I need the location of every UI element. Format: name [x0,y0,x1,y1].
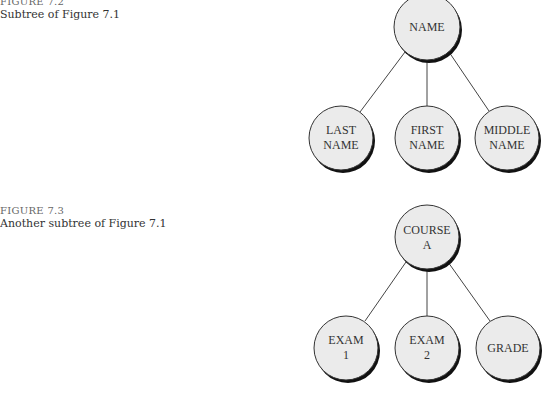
edge [448,262,490,321]
node-label: NAME [409,138,444,152]
node-label: NAME [489,138,524,152]
node-label: NAME [409,20,444,34]
node-label: FIRST [411,123,444,137]
edge [360,52,405,112]
tree-node-root: COURSE A [395,205,461,272]
tree-node-child: EXAM 2 [395,316,461,383]
tree-node-child: MIDDLE NAME [475,106,541,173]
node-label: EXAM [328,333,364,347]
tree-node-child: FIRST NAME [395,106,461,173]
node-label: 1 [343,348,349,362]
tree-diagrams: NAME LAST NAME FIRST NAME MIDDLE NAME [0,0,543,394]
figure-7-3-tree: COURSE A EXAM 1 EXAM 2 GRADE [314,205,542,383]
node-label: MIDDLE [484,123,531,137]
node-label: COURSE [403,223,450,237]
node-label: 2 [424,348,430,362]
tree-node-child: LAST NAME [309,106,375,173]
tree-node-child: GRADE [476,316,542,383]
node-label: LAST [326,123,357,137]
figure-7-2-tree: NAME LAST NAME FIRST NAME MIDDLE NAME [309,0,541,173]
tree-node-child: EXAM 1 [314,316,380,383]
node-label: EXAM [409,333,445,347]
edge [449,52,489,111]
node-label: NAME [323,138,358,152]
node-label: GRADE [487,341,528,355]
edge [365,262,406,321]
node-label: A [423,238,432,252]
